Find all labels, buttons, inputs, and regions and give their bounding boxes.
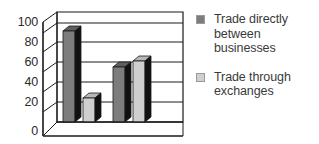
bar-chart-figure: 100 80 60 40 20 0 xyxy=(0,0,319,144)
legend-label-trade-directly: Trade directly between businesses xyxy=(214,12,319,56)
bar-g1-s1-side xyxy=(75,26,81,122)
bar-g1-s1-front xyxy=(63,31,75,122)
bar-g2-s1-front xyxy=(113,67,125,122)
chart-legend: Trade directly between businesses Trade … xyxy=(196,12,319,113)
bar-g1-s2-front xyxy=(83,98,95,122)
legend-label-trade-through-exchanges: Trade through exchanges xyxy=(214,70,319,99)
bar-g2-s2-side xyxy=(145,56,151,122)
chart-left-wall xyxy=(43,12,57,136)
legend-item-trade-directly: Trade directly between businesses xyxy=(196,12,319,56)
bar-g1-s2-side xyxy=(95,93,101,122)
legend-swatch-icon-light xyxy=(196,73,205,82)
legend-swatch-icon-dark xyxy=(196,15,205,24)
bar-g2-s1-side xyxy=(125,62,131,122)
bar-g2-s2-front xyxy=(133,61,145,122)
legend-item-trade-through-exchanges: Trade through exchanges xyxy=(196,70,319,99)
chart-floor xyxy=(43,122,183,136)
